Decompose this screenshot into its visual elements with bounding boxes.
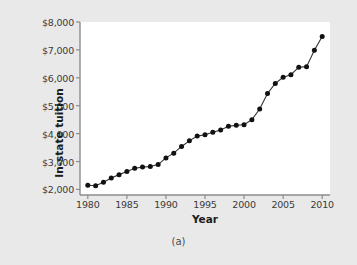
data-point [226, 124, 231, 129]
x-tick-label: 2000 [232, 199, 255, 210]
data-point [257, 107, 262, 112]
data-point [93, 183, 98, 188]
data-point [163, 155, 168, 160]
y-tick-label: $8,000 [42, 17, 74, 28]
data-point [171, 151, 176, 156]
data-point [109, 175, 114, 180]
x-tick-label: 1990 [154, 199, 177, 210]
data-point [85, 183, 90, 188]
data-point [101, 180, 106, 185]
tick-marks [76, 22, 322, 199]
data-point [304, 64, 309, 69]
data-point [203, 132, 208, 137]
data-point [148, 164, 153, 169]
data-point [124, 169, 129, 174]
data-point [234, 123, 239, 128]
data-point [156, 162, 161, 167]
data-point [273, 81, 278, 86]
data-point [320, 34, 325, 39]
x-tick-label: 2005 [271, 199, 294, 210]
data-point [242, 122, 247, 127]
data-markers [85, 34, 324, 188]
x-tick-label: 1995 [193, 199, 216, 210]
x-tick-label: 2010 [310, 199, 333, 210]
x-tick-label: 1980 [76, 199, 99, 210]
data-point [132, 166, 137, 171]
x-tick-label: 1985 [115, 199, 138, 210]
data-point [117, 172, 122, 177]
data-point [218, 127, 223, 132]
y-tick-label: $6,000 [42, 72, 74, 83]
data-point [187, 138, 192, 143]
data-point [249, 117, 254, 122]
y-tick-label: $7,000 [42, 44, 74, 55]
y-tick-label: $2,000 [42, 184, 74, 195]
data-point [140, 165, 145, 170]
data-point [210, 130, 215, 135]
x-axis-title: Year [80, 213, 330, 225]
data-point [179, 144, 184, 149]
data-point [281, 75, 286, 80]
data-point [288, 72, 293, 77]
data-point [265, 91, 270, 96]
data-point [296, 65, 301, 70]
figure-panel: $2,000$3,000$4,000$5,000$6,000$7,000$8,0… [0, 0, 357, 265]
axis-lines [80, 22, 330, 195]
data-line [88, 37, 322, 186]
data-point [195, 134, 200, 139]
y-axis-title: In-state tuition [53, 88, 65, 177]
figure-caption: (a) [0, 236, 357, 247]
data-point [312, 48, 317, 53]
